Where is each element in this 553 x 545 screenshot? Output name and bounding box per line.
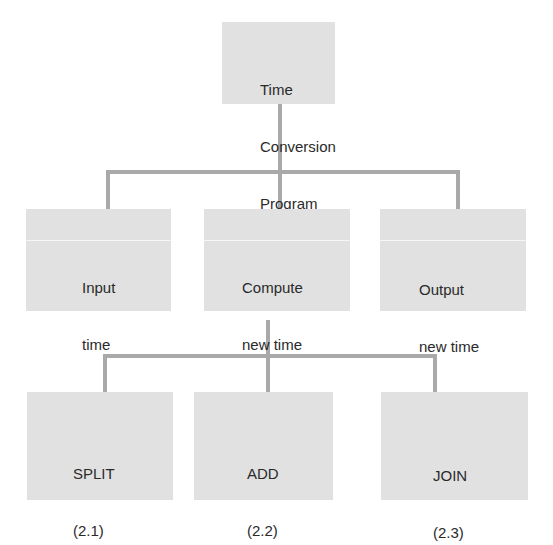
box-compute-new-time: Compute new time (2) [204,209,350,311]
split-line-1: SPLIT [73,464,115,483]
split-label: SPLIT (2.1) [73,426,115,545]
connector-to-output-new-time [456,170,460,210]
box-add: ADD (2.2) [194,392,333,500]
join-line-1: JOIN [433,466,467,485]
root-label-line-2: Conversion [260,137,336,156]
input-time-line-2: time [82,335,115,354]
root-box-time-conversion-program: Time Conversion Program [222,22,335,104]
join-line-2: (2.3) [433,523,467,542]
compute-new-time-line-1: Compute [242,278,303,297]
output-new-time-line-2: new time [419,337,479,356]
box-separator [380,240,526,241]
split-line-2: (2.1) [73,521,115,540]
join-label: JOIN (2.3) [433,428,467,545]
root-label-line-1: Time [260,80,336,99]
add-label: ADD (2.2) [247,426,279,545]
input-time-line-1: Input [82,278,115,297]
compute-new-time-line-2: new time [242,335,303,354]
connector-to-input-time [106,170,110,210]
box-output-new-time: Output new time (3) [380,209,526,311]
box-input-time: Input time (1) [26,209,171,311]
add-line-2: (2.2) [247,521,279,540]
box-join: JOIN (2.3) [381,392,528,500]
output-new-time-line-1: Output [419,280,479,299]
box-split: SPLIT (2.1) [27,392,173,500]
add-line-1: ADD [247,464,279,483]
